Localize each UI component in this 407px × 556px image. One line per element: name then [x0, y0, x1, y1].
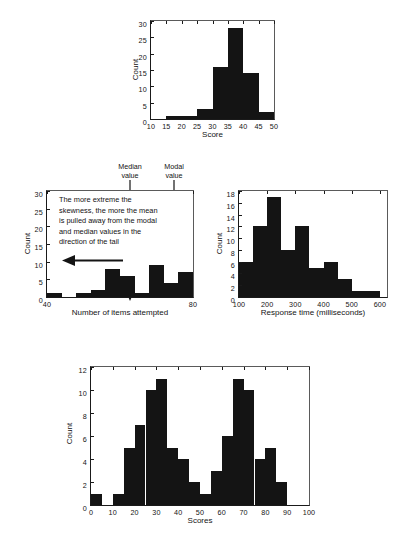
- x-tick-mark: [213, 21, 214, 24]
- y-tick-mark: [47, 226, 50, 227]
- histogram-bar: [295, 226, 309, 297]
- histogram-bar: [267, 197, 281, 297]
- y-tick-label: 30: [139, 21, 151, 28]
- x-tick-mark: [352, 191, 353, 194]
- y-tick-label: 4: [231, 273, 239, 280]
- histogram-bar: [178, 272, 193, 297]
- x-tick-label: 50: [196, 505, 204, 516]
- x-tick-mark: [239, 191, 240, 194]
- y-tick-mark: [151, 86, 154, 87]
- x-tick-label: 400: [317, 297, 330, 308]
- median-label-line1: Median: [118, 162, 142, 171]
- y-tick-label: 10: [79, 390, 91, 397]
- y-tick-mark: [239, 285, 242, 286]
- histogram-bar: [222, 436, 233, 505]
- histogram-bar: [76, 293, 91, 297]
- bars-scores: [91, 367, 309, 505]
- y-tick-label: 10: [139, 86, 151, 93]
- y-tick-label: 6: [83, 436, 91, 443]
- histogram-bar: [324, 262, 338, 297]
- chart-panel-d: 024681012 0102030405060708090100 Scores …: [0, 350, 407, 556]
- histogram-bar: [124, 448, 135, 506]
- x-tick-label: 60: [218, 505, 226, 516]
- histogram-bar: [281, 250, 295, 297]
- x-tick-label: 10: [147, 119, 155, 130]
- x-axis-label-items: Number of items attempted: [72, 308, 168, 317]
- y-tick-mark: [91, 459, 94, 460]
- histogram-bar: [167, 448, 178, 506]
- histogram-bar: [178, 459, 189, 505]
- x-tick-mark: [287, 367, 288, 370]
- histogram-bar: [120, 276, 135, 297]
- histogram-bar: [200, 494, 211, 506]
- histogram-bar: [253, 226, 267, 297]
- y-tick-mark: [91, 413, 94, 414]
- x-axis-label-scores: Scores: [188, 516, 213, 525]
- x-tick-label: 45: [254, 119, 262, 130]
- x-tick-label: 500: [345, 297, 358, 308]
- x-tick-mark: [222, 367, 223, 370]
- x-tick-mark: [182, 21, 183, 24]
- histogram-bar: [309, 268, 323, 297]
- x-tick-mark: [380, 191, 381, 194]
- y-tick-label: 20: [139, 53, 151, 60]
- bars-response: [239, 191, 387, 297]
- x-tick-mark: [193, 191, 194, 194]
- y-tick-label: 2: [231, 285, 239, 292]
- skewness-annotation-text: The more extreme the skewness, the more …: [59, 195, 164, 248]
- histogram-bar: [135, 425, 146, 506]
- x-tick-label: 25: [193, 119, 201, 130]
- x-tick-label: 35: [224, 119, 232, 130]
- y-tick-mark: [151, 70, 154, 71]
- histogram-bar: [211, 471, 222, 506]
- histogram-bar: [113, 494, 124, 506]
- y-tick-mark: [151, 103, 154, 104]
- y-tick-label: 16: [227, 202, 239, 209]
- x-tick-label: 90: [283, 505, 291, 516]
- y-tick-label: 25: [139, 37, 151, 44]
- x-tick-label: 70: [239, 505, 247, 516]
- modal-label-line1: Modal: [164, 162, 184, 171]
- x-tick-label: 600: [374, 297, 387, 308]
- y-tick-label: 5: [39, 279, 47, 286]
- median-value-label: Median value: [108, 162, 152, 180]
- y-tick-mark: [151, 54, 154, 55]
- x-tick-mark: [91, 367, 92, 370]
- x-tick-mark: [197, 21, 198, 24]
- x-tick-label: 30: [152, 505, 160, 516]
- bars-score: [151, 21, 274, 119]
- y-axis-label-response: Count: [215, 224, 224, 264]
- y-tick-mark: [151, 37, 154, 38]
- x-tick-mark: [166, 21, 167, 24]
- y-axis-label-scores: Count: [65, 414, 74, 454]
- histogram-bar: [146, 390, 157, 505]
- plot-area-items: 051015202530 4080 Number of items attemp…: [46, 190, 194, 298]
- histogram-bar: [276, 482, 287, 505]
- y-tick-label: 25: [35, 208, 47, 215]
- x-tick-label: 200: [261, 297, 274, 308]
- x-tick-mark: [265, 367, 266, 370]
- y-tick-label: 10: [35, 261, 47, 268]
- y-tick-label: 8: [83, 413, 91, 420]
- y-tick-mark: [91, 482, 94, 483]
- y-tick-label: 15: [35, 244, 47, 251]
- x-tick-mark: [228, 21, 229, 24]
- y-tick-mark: [47, 279, 50, 280]
- y-axis-label-score: Count: [131, 50, 140, 90]
- chart-panel-c: 024681012141618 100200300400500600 Respo…: [210, 160, 407, 350]
- x-tick-label: 80: [261, 505, 269, 516]
- x-tick-label: 15: [162, 119, 170, 130]
- histogram-bar: [135, 293, 150, 297]
- plot-area-scores: 024681012 0102030405060708090100 Scores …: [90, 366, 310, 506]
- chart-panel-a: 051015202530 101520253035404550 Score Co…: [0, 0, 407, 160]
- y-tick-label: 12: [79, 367, 91, 374]
- x-tick-mark: [200, 367, 201, 370]
- histogram-bar: [244, 390, 255, 505]
- y-tick-label: 15: [139, 70, 151, 77]
- histogram-bar: [255, 459, 266, 505]
- x-tick-mark: [135, 367, 136, 370]
- y-tick-mark: [47, 209, 50, 210]
- x-tick-label: 50: [270, 119, 278, 130]
- tail-direction-arrow-icon: [61, 255, 123, 266]
- y-axis-label-items: Count: [23, 224, 32, 264]
